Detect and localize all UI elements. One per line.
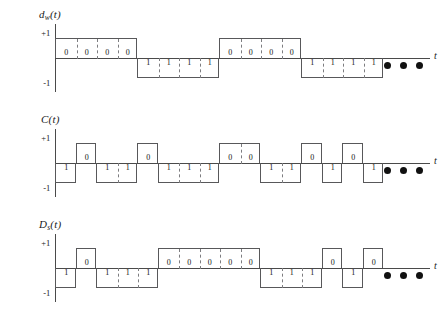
dot: [416, 167, 423, 174]
chip-value: 0: [97, 48, 118, 57]
chip-value: 0: [159, 258, 180, 267]
chip-value: 0: [220, 48, 241, 57]
chip-divider: [364, 58, 365, 78]
chip-value: 1: [159, 163, 180, 172]
axis-tick-high-data: +1: [34, 28, 50, 38]
x-axis-label-code: t: [434, 155, 437, 166]
dot: [384, 272, 391, 279]
chip-divider: [261, 39, 262, 59]
chip-value: 0: [343, 153, 364, 162]
chip-value: 0: [56, 48, 77, 57]
x-axis-label-data: t: [434, 50, 437, 61]
chip-value: 1: [200, 58, 221, 67]
chip-divider: [200, 163, 201, 183]
chip-value: 0: [241, 48, 262, 57]
chip-divider: [179, 163, 180, 183]
chip-value: 0: [200, 258, 221, 267]
waveform-segment-data: 0000: [219, 38, 301, 58]
waveform-segment-code: 11: [96, 163, 137, 183]
chip-value: 0: [282, 48, 303, 57]
chip-value: 0: [220, 153, 241, 162]
chip-divider: [97, 39, 98, 59]
chip-value: 0: [77, 258, 98, 267]
chip-divider: [282, 39, 283, 59]
signal-panel-data: dw(t) +1 -1 t 0000111100001111: [0, 0, 448, 100]
dot: [400, 167, 407, 174]
chip-divider: [241, 249, 242, 269]
chip-value: 0: [241, 258, 262, 267]
chip-value: 0: [118, 48, 139, 57]
x-axis-label-spread: t: [434, 260, 437, 271]
waveform-segment-spread: 1: [342, 268, 363, 288]
signal-panel-spread: Ds(t) +1 -1 t 1011100000111010: [0, 210, 448, 310]
dsss-waveform-figure: dw(t) +1 -1 t 0000111100001111 C(t) +1 -…: [0, 0, 448, 316]
chip-value: 0: [138, 153, 159, 162]
dot: [400, 62, 407, 69]
chip-value: 0: [241, 153, 262, 162]
chip-value: 1: [343, 58, 364, 67]
chip-divider: [118, 39, 119, 59]
chip-divider: [138, 268, 139, 288]
chip-value: 0: [302, 153, 323, 162]
chip-value: 1: [118, 163, 139, 172]
chip-value: 1: [343, 268, 364, 277]
chip-value: 1: [323, 163, 344, 172]
waveform-segment-code: 1: [55, 163, 76, 183]
chip-value: 0: [261, 48, 282, 57]
chip-value: 1: [302, 268, 323, 277]
chip-value: 0: [179, 258, 200, 267]
chip-value: 1: [179, 58, 200, 67]
signal-panel-code: C(t) +1 -1 t 1011011100110101: [0, 105, 448, 205]
axis-tick-low-spread: -1: [34, 288, 50, 298]
chip-divider: [282, 268, 283, 288]
dot: [400, 272, 407, 279]
chip-value: 1: [138, 268, 159, 277]
chip-divider: [118, 163, 119, 183]
chip-divider: [179, 249, 180, 269]
waveform-segment-code: 1: [322, 163, 343, 183]
continuation-dots-spread: [384, 272, 423, 279]
continuation-dots-data: [384, 62, 423, 69]
chip-value: 1: [56, 163, 77, 172]
chip-divider: [343, 58, 344, 78]
chip-value: 1: [261, 268, 282, 277]
waveform-segment-data: 1111: [301, 58, 383, 78]
waveform-segment-code: 111: [158, 163, 220, 183]
waveform-segment-data: 0000: [55, 38, 137, 58]
waveform-segment-spread: 0: [363, 248, 384, 268]
dot: [416, 272, 423, 279]
chip-divider: [241, 144, 242, 164]
chip-value: 0: [220, 258, 241, 267]
signal-label-spread: Ds(t): [39, 218, 61, 230]
waveform-segment-spread: 1: [55, 268, 76, 288]
chip-value: 1: [179, 163, 200, 172]
chip-value: 1: [56, 268, 77, 277]
chip-divider: [77, 39, 78, 59]
chip-divider: [179, 58, 180, 78]
chip-divider: [241, 39, 242, 59]
waveform-segment-code: 0: [342, 143, 363, 163]
dot: [384, 167, 391, 174]
chip-value: 1: [282, 268, 303, 277]
continuation-dots-code: [384, 167, 423, 174]
waveform-segment-code: 0: [76, 143, 97, 163]
chip-value: 0: [77, 48, 98, 57]
chip-divider: [220, 249, 221, 269]
waveform-segment-spread: 0: [76, 248, 97, 268]
waveform-segment-spread: 0: [322, 248, 343, 268]
waveform-segment-code: 0: [301, 143, 322, 163]
axis-tick-high-spread: +1: [34, 238, 50, 248]
axis-tick-low-code: -1: [34, 183, 50, 193]
axis-tick-low-data: -1: [34, 78, 50, 88]
chip-value: 1: [159, 58, 180, 67]
chip-divider: [302, 268, 303, 288]
waveform-segment-code: 0: [137, 143, 158, 163]
waveform-segment-spread: 00000: [158, 248, 261, 268]
chip-value: 0: [323, 258, 344, 267]
chip-value: 1: [97, 268, 118, 277]
chip-value: 1: [261, 163, 282, 172]
chip-value: 1: [364, 163, 385, 172]
chip-value: 1: [200, 163, 221, 172]
waveform-segment-spread: 111: [96, 268, 158, 288]
waveform-segment-code: 1: [363, 163, 384, 183]
